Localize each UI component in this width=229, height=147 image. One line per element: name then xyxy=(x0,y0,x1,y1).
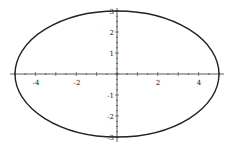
y-tick-label: -1 xyxy=(107,92,114,100)
y-tick-label: -2 xyxy=(107,113,114,121)
ellipse-plot: -4 -2 2 4 3 2 1 -1 -2 -3 xyxy=(0,0,229,147)
x-tick-label: 2 xyxy=(156,79,160,87)
x-tick-label: -2 xyxy=(74,79,81,87)
x-tick-label: 4 xyxy=(197,79,202,87)
y-tick-label: -3 xyxy=(107,134,114,142)
y-tick-label: 2 xyxy=(110,29,114,37)
y-tick-label: 1 xyxy=(110,50,114,58)
y-tick-label: 3 xyxy=(110,8,114,16)
x-tick-label: -4 xyxy=(33,79,40,87)
y-tick-labels: 3 2 1 -1 -2 -3 xyxy=(107,8,114,142)
